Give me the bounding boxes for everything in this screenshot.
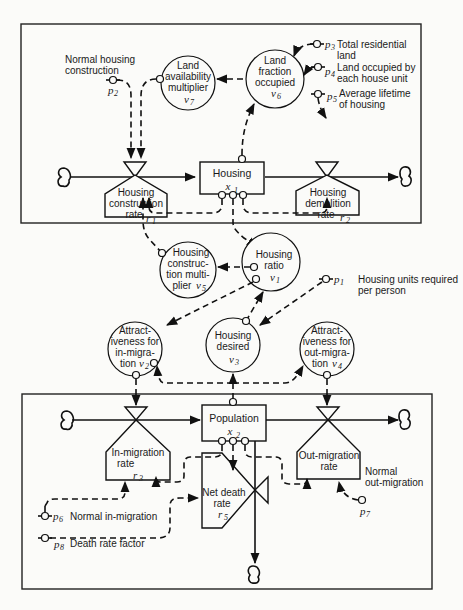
svg-text:v: v xyxy=(332,357,337,369)
p5-to-r2-link xyxy=(318,98,326,118)
svg-text:3: 3 xyxy=(234,358,239,367)
svg-text:Attract-: Attract- xyxy=(119,325,151,336)
source-cloud-icon xyxy=(61,411,73,429)
svg-text:Normal: Normal xyxy=(365,466,397,477)
svg-text:out-migration: out-migration xyxy=(365,477,423,488)
svg-text:of housing: of housing xyxy=(339,99,385,110)
param-p5[interactable]: p 5 Average lifetime of housing xyxy=(311,88,411,110)
svg-text:availability: availability xyxy=(165,71,211,82)
source-cloud-icon xyxy=(58,168,70,186)
p3-to-v6-link xyxy=(294,44,313,56)
svg-text:8: 8 xyxy=(60,543,64,552)
v7-to-r1-link xyxy=(141,79,156,158)
svg-text:v: v xyxy=(139,357,144,369)
svg-text:r: r xyxy=(218,508,223,520)
svg-text:p: p xyxy=(324,65,331,77)
param-p1[interactable]: p 1 Housing units required per person xyxy=(319,273,458,296)
level-housing[interactable]: Housing x 1 xyxy=(200,162,264,195)
svg-text:1: 1 xyxy=(340,278,344,287)
aux-housing-desired[interactable]: Housing desired v 3 xyxy=(206,318,260,372)
valve-r5-icon xyxy=(255,477,268,503)
svg-text:p: p xyxy=(107,84,114,96)
svg-text:7: 7 xyxy=(366,510,371,519)
param-p8[interactable]: p 8 Death rate factor xyxy=(38,535,145,553)
level-population[interactable]: Population x 2 xyxy=(202,405,266,441)
svg-text:v: v xyxy=(270,271,275,283)
aux-housing-construction-multiplier[interactable]: Housing construc- tion multi- plier v 5 xyxy=(160,242,216,298)
v3-to-v1-link xyxy=(246,292,263,321)
svg-text:2: 2 xyxy=(236,431,240,440)
rate-in-migration[interactable]: In-migration rate xyxy=(106,420,170,480)
svg-text:multiplier: multiplier xyxy=(168,82,209,93)
svg-text:Housing: Housing xyxy=(173,247,210,258)
svg-text:2: 2 xyxy=(145,362,149,371)
sink-cloud-icon xyxy=(399,410,410,429)
svg-text:4: 4 xyxy=(331,70,335,79)
aux-attractiveness-in-migration[interactable]: Attract- iveness for in-migra- tion v 2 xyxy=(108,322,162,376)
p4-to-v6-link xyxy=(304,67,314,75)
svg-text:per person: per person xyxy=(358,285,406,296)
svg-text:5: 5 xyxy=(224,513,228,522)
param-p2[interactable]: Normal housing construction p 2 xyxy=(65,54,135,98)
svg-text:ratio: ratio xyxy=(264,260,284,271)
svg-text:Housing: Housing xyxy=(215,330,252,341)
param-p6[interactable]: p 6 Normal in-migration xyxy=(38,506,157,524)
level-housing-label: Housing xyxy=(213,167,252,179)
aux-attractiveness-out-migration[interactable]: Attract- iveness for out-migra- tion v 4 xyxy=(300,322,354,376)
housing-top-tap xyxy=(239,156,246,163)
valve-r4-icon xyxy=(317,407,339,420)
rate-net-death[interactable]: Net death rate r 5 xyxy=(202,453,255,528)
svg-text:Total residential: Total residential xyxy=(337,39,406,50)
svg-text:Out-migration: Out-migration xyxy=(299,450,360,461)
svg-text:r: r xyxy=(133,469,138,481)
rate-out-migration[interactable]: Out-migration rate xyxy=(297,420,360,479)
svg-text:land: land xyxy=(337,50,356,61)
svg-text:v: v xyxy=(196,279,201,291)
svg-text:Normal in-migration: Normal in-migration xyxy=(70,511,157,522)
svg-text:p: p xyxy=(324,38,331,50)
svg-text:Housing: Housing xyxy=(310,187,347,198)
param-p3[interactable]: p 3 Total residential land xyxy=(310,38,406,61)
svg-text:6: 6 xyxy=(59,515,63,524)
svg-text:rate: rate xyxy=(125,209,143,220)
valve-r3-icon xyxy=(125,407,147,420)
svg-text:tion: tion xyxy=(312,358,328,369)
svg-text:6: 6 xyxy=(277,92,281,101)
svg-text:Housing units required: Housing units required xyxy=(358,274,458,285)
svg-text:rate: rate xyxy=(117,458,135,469)
svg-text:2: 2 xyxy=(114,89,118,98)
svg-text:x: x xyxy=(227,425,233,437)
svg-text:p: p xyxy=(359,505,366,517)
svg-text:Normal housing: Normal housing xyxy=(65,54,135,65)
svg-text:p: p xyxy=(333,273,340,285)
svg-text:Land occupied by: Land occupied by xyxy=(337,62,415,73)
aux-land-fraction-occupied[interactable]: Land fraction occupied v 6 xyxy=(246,50,304,108)
svg-text:2: 2 xyxy=(346,216,350,225)
x1-to-v6-link xyxy=(242,104,254,155)
svg-text:Death rate factor: Death rate factor xyxy=(70,538,145,549)
sink-cloud-icon xyxy=(400,167,411,186)
param-p7[interactable]: Normal out-migration p 7 xyxy=(359,466,424,519)
aux-land-availability-multiplier[interactable]: Land availability multiplier v 7 xyxy=(161,56,215,110)
level-population-label: Population xyxy=(209,412,259,424)
svg-text:1: 1 xyxy=(276,276,280,285)
svg-text:in-migra-: in-migra- xyxy=(115,347,154,358)
svg-text:v: v xyxy=(229,353,234,365)
svg-text:Housing: Housing xyxy=(256,249,293,260)
svg-text:In-migration: In-migration xyxy=(112,447,165,458)
svg-text:rate: rate xyxy=(320,461,338,472)
svg-text:iveness for: iveness for xyxy=(303,336,352,347)
svg-text:3: 3 xyxy=(330,43,335,52)
system-dynamics-diagram: Housing x 1 Housing construction rate r … xyxy=(0,0,463,610)
svg-text:construc-: construc- xyxy=(167,258,208,269)
svg-text:Net death: Net death xyxy=(202,487,245,498)
svg-text:p: p xyxy=(53,538,60,550)
svg-text:iveness for: iveness for xyxy=(111,336,160,347)
svg-text:tion: tion xyxy=(120,358,136,369)
svg-text:3: 3 xyxy=(138,474,143,483)
svg-text:p: p xyxy=(52,510,59,522)
param-p4[interactable]: p 4 Land occupied by each house unit xyxy=(311,62,415,84)
svg-text:each house unit: each house unit xyxy=(337,73,408,84)
sink-cloud-icon xyxy=(248,566,259,583)
svg-text:demolition: demolition xyxy=(305,198,351,209)
